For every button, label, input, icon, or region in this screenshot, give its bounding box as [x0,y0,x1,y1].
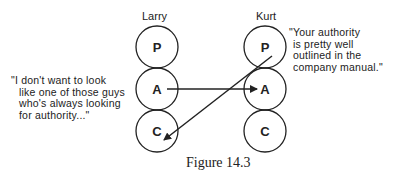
kurt-quote-line-1: "Your authority [289,27,383,39]
larry-quote-line-4: for authority..." [11,110,125,122]
larry-quote: "I don't want to look like one of those … [11,75,125,121]
kurt-quote-line-3: outlined in the [289,50,383,62]
kurt-quote: "Your authority is pretty well outlined … [289,27,383,73]
arrow-kurt-p-to-larry-c [164,56,272,140]
larry-name: Larry [142,10,167,23]
larry-quote-line-3: who's always looking [11,98,125,110]
kurt-a-label: A [260,82,270,97]
larry-p-label: P [153,40,162,55]
kurt-quote-line-4: company manual." [289,62,383,74]
figure-caption: Figure 14.3 [186,155,251,171]
kurt-p-label: P [261,40,270,55]
larry-c-label: C [152,124,162,139]
larry-a-label: A [152,82,162,97]
kurt-name: Kurt [256,10,276,23]
transaction-diagram: P A C P A C Larry Kurt "I don't want to … [0,0,396,178]
kurt-c-label: C [260,124,270,139]
larry-quote-line-1: "I don't want to look [11,75,125,87]
